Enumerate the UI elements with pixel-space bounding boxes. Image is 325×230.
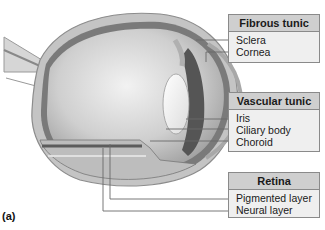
retina-box: Retina Pigmented layer Neural layer <box>228 172 320 218</box>
label-choroid: Choroid <box>236 136 319 148</box>
vascular-tunic-header: Vascular tunic <box>229 93 319 110</box>
fibrous-tunic-box: Fibrous tunic Sclera Cornea <box>228 14 320 63</box>
fibrous-tunic-header: Fibrous tunic <box>229 15 319 32</box>
label-pigmented-layer: Pigmented layer <box>236 192 319 204</box>
label-ciliary-body: Ciliary body <box>236 124 319 136</box>
label-iris: Iris <box>236 112 319 124</box>
label-cornea: Cornea <box>236 46 319 58</box>
panel-letter: (a) <box>2 210 15 222</box>
retina-header: Retina <box>229 173 319 190</box>
lens <box>163 74 189 134</box>
label-neural-layer: Neural layer <box>236 204 319 216</box>
vascular-tunic-box: Vascular tunic Iris Ciliary body Choroid <box>228 92 320 152</box>
label-sclera: Sclera <box>236 34 319 46</box>
